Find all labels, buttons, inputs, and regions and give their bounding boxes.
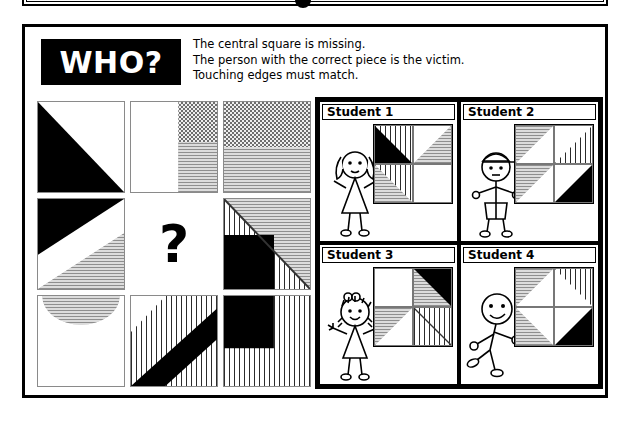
puzzle-grid: ? bbox=[37, 101, 311, 387]
title-strip bbox=[22, 0, 608, 6]
student-3-piece[interactable] bbox=[373, 267, 453, 347]
diagonal-divider-line bbox=[224, 199, 310, 289]
piece3-quad-br bbox=[413, 307, 452, 346]
instruction-line-2: The person with the correct piece is the… bbox=[193, 53, 593, 69]
puzzle-cell-r3c1 bbox=[37, 295, 125, 387]
piece4-quad-bl bbox=[515, 307, 554, 346]
piece1-quad-tl bbox=[374, 125, 413, 164]
puzzle-cell-r2c1 bbox=[37, 198, 125, 290]
worksheet-frame: WHO? The central square is missing. The … bbox=[22, 24, 608, 398]
title-strip-inner bbox=[26, 0, 604, 2]
student-2-piece[interactable] bbox=[514, 124, 594, 204]
piece2-quad-tr bbox=[554, 125, 593, 164]
instruction-line-3: Touching edges must match. bbox=[193, 68, 593, 84]
piece2-quad-br bbox=[554, 164, 593, 203]
puzzle-cell-missing-centre[interactable]: ? bbox=[130, 198, 218, 290]
student-card-1[interactable]: Student 1 bbox=[318, 100, 459, 243]
puzzle-cell-r1c2 bbox=[130, 101, 218, 193]
student-2-label: Student 2 bbox=[463, 104, 596, 120]
fill-white bbox=[375, 269, 412, 306]
piece3-quad-tl bbox=[374, 268, 413, 307]
diagonal-divider-line bbox=[414, 308, 451, 345]
who-badge: WHO? bbox=[41, 39, 181, 85]
who-badge-label: WHO? bbox=[59, 45, 162, 80]
puzzle-panel: ? bbox=[31, 97, 307, 389]
student-3-label: Student 3 bbox=[322, 247, 455, 263]
puzzle-cell-r1c1 bbox=[37, 101, 125, 193]
puzzle-cell-r1c3 bbox=[223, 101, 311, 193]
piece1-quad-bl bbox=[374, 164, 413, 203]
student-4-piece[interactable] bbox=[514, 267, 594, 347]
puzzle-cell-r2c3 bbox=[223, 198, 311, 290]
piece2-quad-tl bbox=[515, 125, 554, 164]
students-panel: Student 1 bbox=[315, 97, 603, 389]
puzzle-cell-r3c2 bbox=[130, 295, 218, 387]
piece1-quad-tr bbox=[413, 125, 452, 164]
piece4-quad-tr bbox=[554, 268, 593, 307]
student-1-piece[interactable] bbox=[373, 124, 453, 204]
student-card-2[interactable]: Student 2 bbox=[459, 100, 600, 243]
piece4-quad-br bbox=[554, 307, 593, 346]
student-card-3[interactable]: Student 3 bbox=[318, 243, 459, 386]
piece3-quad-tr bbox=[413, 268, 452, 307]
piece4-quad-tl bbox=[515, 268, 554, 307]
piece2-quad-bl bbox=[515, 164, 554, 203]
missing-piece-question-mark: ? bbox=[159, 218, 189, 270]
piece3-quad-bl bbox=[374, 307, 413, 346]
puzzle-page: WHO? The central square is missing. The … bbox=[0, 0, 630, 421]
instruction-line-1: The central square is missing. bbox=[193, 37, 593, 53]
instructions-block: The central square is missing. The perso… bbox=[193, 37, 593, 84]
student-card-4[interactable]: Student 4 bbox=[459, 243, 600, 386]
title-dot-decoration bbox=[295, 0, 311, 8]
piece1-quad-br bbox=[413, 164, 452, 203]
puzzle-cell-r3c3 bbox=[223, 295, 311, 387]
student-1-label: Student 1 bbox=[322, 104, 455, 120]
fill-white bbox=[414, 165, 451, 202]
student-4-label: Student 4 bbox=[463, 247, 596, 263]
